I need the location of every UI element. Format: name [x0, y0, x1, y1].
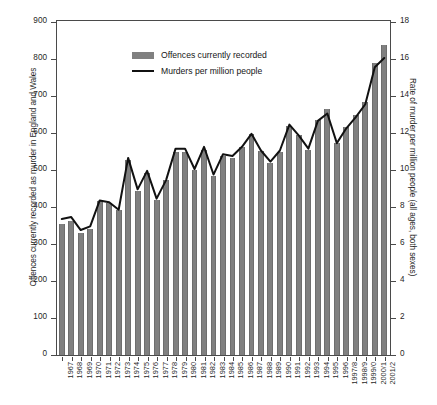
x-tick-label: 1968	[75, 362, 84, 378]
x-tick-mark	[138, 357, 139, 361]
right-tick-mark	[391, 59, 396, 60]
x-tick-mark	[81, 357, 82, 361]
x-tick-mark	[91, 357, 92, 361]
x-tick-mark	[271, 357, 272, 361]
right-tick-mark	[391, 355, 396, 356]
x-tick-mark	[157, 357, 158, 361]
right-tick-label: 18	[400, 16, 430, 25]
right-tick-label: 14	[400, 90, 430, 99]
left-tick-label: 100	[7, 312, 47, 321]
x-tick-mark	[224, 357, 225, 361]
line-swatch-icon	[132, 70, 154, 72]
x-tick-mark	[242, 357, 243, 361]
x-tick-label: 1995	[331, 362, 340, 378]
legend-label-murder-rate: Murders per million people	[161, 66, 262, 76]
x-tick-mark	[233, 357, 234, 361]
x-tick-label: 1983	[218, 362, 227, 378]
legend-label-offences: Offences currently recorded	[161, 50, 267, 60]
right-tick-mark	[391, 22, 396, 23]
x-tick-mark	[119, 357, 120, 361]
x-tick-mark	[299, 357, 300, 361]
x-tick-mark	[318, 357, 319, 361]
x-tick-label: 1985	[236, 362, 245, 378]
x-tick-mark	[100, 357, 101, 361]
right-tick-label: 0	[400, 349, 430, 358]
x-tick-label: 1974	[132, 362, 141, 378]
right-tick-mark	[391, 170, 396, 171]
x-tick-mark	[366, 357, 367, 361]
x-tick-label: 1998/9	[360, 362, 369, 385]
left-tick-label: 400	[7, 201, 47, 210]
left-tick-label: 200	[7, 275, 47, 284]
x-tick-label: 1990	[284, 362, 293, 378]
legend-item-offences: Offences currently recorded	[132, 48, 342, 62]
x-tick-mark	[347, 357, 348, 361]
x-tick-label: 1982	[208, 362, 217, 378]
left-tick-label: 900	[7, 16, 47, 25]
x-tick-label: 1996	[341, 362, 350, 378]
x-tick-mark	[290, 357, 291, 361]
right-tick-mark	[391, 96, 396, 97]
right-axis-title: Rate of murder per million people (all a…	[408, 47, 418, 307]
x-tick-mark	[328, 357, 329, 361]
x-tick-mark	[214, 357, 215, 361]
x-tick-mark	[252, 357, 253, 361]
x-tick-label: 2000/1	[379, 362, 388, 385]
x-tick-mark	[280, 357, 281, 361]
x-tick-label: 1999/0	[369, 362, 378, 385]
x-tick-label: 1977	[161, 362, 170, 378]
left-tick-label: 700	[7, 90, 47, 99]
x-tick-mark	[167, 357, 168, 361]
x-tick-mark	[261, 357, 262, 361]
x-tick-mark	[148, 357, 149, 361]
x-tick-label: 1988	[265, 362, 274, 378]
x-tick-label: 1991	[293, 362, 302, 378]
x-tick-label: 1980	[189, 362, 198, 378]
right-tick-label: 12	[400, 127, 430, 136]
plot-area: Offences currently recorded Murders per …	[56, 20, 391, 356]
right-tick-mark	[391, 207, 396, 208]
x-tick-mark	[375, 357, 376, 361]
right-tick-mark	[391, 244, 396, 245]
right-tick-label: 8	[400, 201, 430, 210]
x-tick-label: 1979	[180, 362, 189, 378]
right-tick-mark	[391, 281, 396, 282]
left-tick-label: 600	[7, 127, 47, 136]
x-tick-label: 1972	[113, 362, 122, 378]
x-axis-labels: 1967196819691970197119721973197419751976…	[56, 357, 391, 405]
murder-statistics-chart: Offences currently recorded as murder in…	[0, 0, 437, 405]
right-tick-label: 16	[400, 53, 430, 62]
right-tick-label: 6	[400, 238, 430, 247]
x-tick-label: 1973	[123, 362, 132, 378]
x-tick-mark	[176, 357, 177, 361]
x-tick-label: 1994	[322, 362, 331, 378]
x-tick-mark	[62, 357, 63, 361]
left-axis-title: Offences currently recorded as murder in…	[28, 47, 38, 307]
x-tick-mark	[129, 357, 130, 361]
left-tick-label: 300	[7, 238, 47, 247]
x-tick-label: 1984	[227, 362, 236, 378]
x-tick-mark	[385, 357, 386, 361]
right-tick-label: 2	[400, 312, 430, 321]
x-tick-label: 1986	[246, 362, 255, 378]
x-tick-label: 1969	[85, 362, 94, 378]
left-tick-label: 0	[7, 349, 47, 358]
x-tick-label: 1975	[142, 362, 151, 378]
left-tick-label: 800	[7, 53, 47, 62]
x-tick-mark	[195, 357, 196, 361]
x-tick-label: 1997/8	[350, 362, 359, 385]
x-tick-label: 1976	[151, 362, 160, 378]
x-tick-mark	[356, 357, 357, 361]
x-tick-label: 1992	[303, 362, 312, 378]
left-tick-label: 500	[7, 164, 47, 173]
x-tick-label: 1971	[104, 362, 113, 378]
right-tick-mark	[391, 318, 396, 319]
x-tick-mark	[205, 357, 206, 361]
right-tick-mark	[391, 133, 396, 134]
x-tick-label: 1967	[66, 362, 75, 378]
chart-legend: Offences currently recorded Murders per …	[132, 48, 342, 80]
x-tick-label: 1989	[274, 362, 283, 378]
legend-item-murder-rate: Murders per million people	[132, 64, 342, 78]
x-tick-mark	[186, 357, 187, 361]
x-tick-mark	[110, 357, 111, 361]
